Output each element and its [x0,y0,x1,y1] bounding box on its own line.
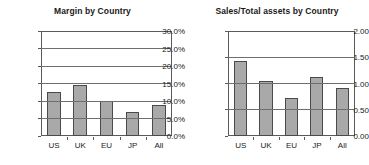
y-tick-label: 30.0% [148,27,185,36]
x-tick-mark [304,137,305,140]
x-tick-label: EU [286,141,297,150]
chart-panel-sales-total-assets-by-country: Sales/Total assets by Country 0.000.501.… [185,0,369,165]
x-tick-mark [120,137,121,140]
x-tick-label: All [154,141,163,150]
bar-eu [285,98,298,136]
figure-two-bar-charts: Margin by Country 0.0%5.0%10.0%15.0%20.0… [0,0,369,165]
y-tick-mark [38,48,41,49]
x-tick-mark [253,137,254,140]
x-tick-label: JP [128,141,137,150]
x-tick-mark [279,137,280,140]
y-tick-mark [38,101,41,102]
x-tick-label: UK [261,141,272,150]
x-tick-label: US [235,141,246,150]
x-tick-label: US [49,141,60,150]
y-tick-label: 0.0% [148,132,185,141]
y-tick-mark [38,83,41,84]
bar-jp [310,77,323,136]
bar-uk [73,85,87,136]
x-tick-mark [67,137,68,140]
y-tick-mark [38,66,41,67]
y-tick-mark [225,57,228,58]
chart-title: Margin by Country [0,6,185,16]
y-tick-label: 15.0% [148,79,185,88]
y-tick-mark [225,136,228,137]
y-tick-label: 2.00 [330,27,369,36]
y-tick-mark [225,31,228,32]
y-tick-mark [38,118,41,119]
y-tick-mark [38,136,41,137]
x-tick-mark [330,137,331,140]
y-tick-label: 10.0% [148,97,185,106]
y-tick-label: 5.0% [148,114,185,123]
bar-us [47,92,61,136]
y-tick-label: 1.50 [330,53,369,62]
y-tick-label: 0.00 [330,132,369,141]
x-tick-label: UK [75,141,86,150]
y-tick-mark [225,109,228,110]
x-tick-label: JP [312,141,321,150]
y-tick-label: 25.0% [148,44,185,53]
chart-title: Sales/Total assets by Country [185,6,369,16]
chart-panel-margin-by-country: Margin by Country 0.0%5.0%10.0%15.0%20.0… [0,0,185,165]
x-tick-mark [146,137,147,140]
x-tick-label: EU [101,141,112,150]
bar-us [234,61,247,136]
x-tick-label: All [338,141,347,150]
y-tick-mark [225,83,228,84]
y-tick-label: 1.00 [330,79,369,88]
y-tick-label: 0.50 [330,105,369,114]
y-tick-mark [38,31,41,32]
y-tick-label: 20.0% [148,62,185,71]
x-tick-mark [93,137,94,140]
bar-jp [126,112,140,137]
